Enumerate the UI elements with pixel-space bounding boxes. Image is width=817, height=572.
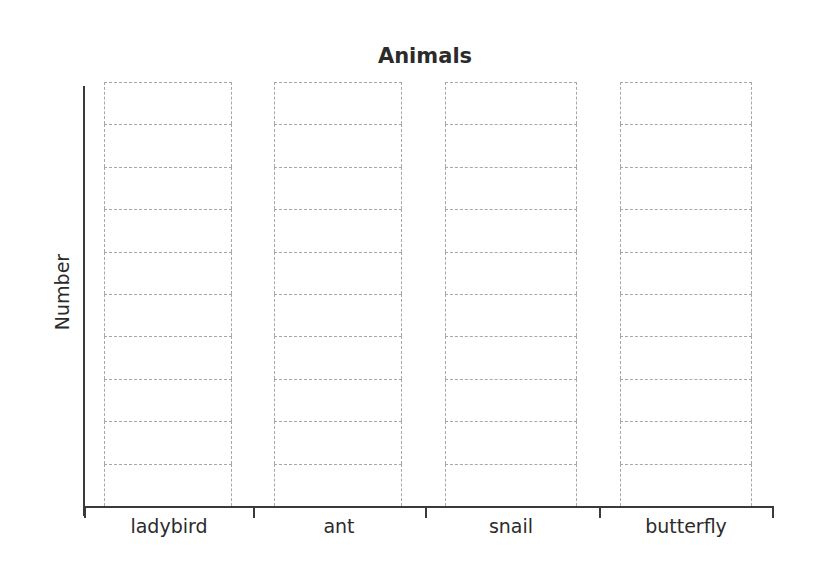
bar-grid-cell: [620, 124, 752, 166]
bar-grid-cell: [104, 124, 232, 166]
bar-grid-cell: [274, 209, 402, 251]
bar-ant: [274, 82, 402, 506]
bar-grid-cell: [620, 252, 752, 294]
bar-grid-cell: [445, 82, 577, 124]
bar-grid-cell: [620, 294, 752, 336]
bar-grid-cell: [620, 464, 752, 506]
x-label-snail: snail: [445, 515, 577, 537]
bar-grid-cell: [274, 167, 402, 209]
bar-grid-cell: [274, 82, 402, 124]
bar-ladybird: [104, 82, 232, 506]
bar-butterfly: [620, 82, 752, 506]
bar-grid-cell: [104, 252, 232, 294]
x-axis-tick: [599, 506, 601, 518]
bar-grid-cell: [104, 464, 232, 506]
chart-title: Animals: [0, 44, 817, 68]
bar-grid-cell: [104, 379, 232, 421]
bar-grid-cell: [274, 252, 402, 294]
x-axis-tick: [84, 506, 86, 518]
bar-grid-cell: [620, 209, 752, 251]
bar-grid-cell: [445, 209, 577, 251]
bar-grid-cell: [274, 464, 402, 506]
bar-grid-cell: [445, 421, 577, 463]
y-axis-label: Number: [51, 254, 73, 330]
x-label-ladybird: ladybird: [104, 515, 234, 537]
bar-grid-cell: [274, 124, 402, 166]
bar-grid-cell: [104, 336, 232, 378]
bar-grid-cell: [274, 379, 402, 421]
x-axis-line: [84, 506, 774, 508]
bar-grid-cell: [445, 379, 577, 421]
bar-grid-cell: [445, 294, 577, 336]
bar-grid-cell: [104, 209, 232, 251]
x-label-ant: ant: [274, 515, 404, 537]
bar-grid-cell: [274, 336, 402, 378]
bar-grid-cell: [445, 252, 577, 294]
bar-grid-cell: [620, 379, 752, 421]
bar-grid-cell: [104, 421, 232, 463]
bar-grid-cell: [104, 294, 232, 336]
bar-grid-cell: [620, 421, 752, 463]
bar-grid-cell: [620, 336, 752, 378]
bar-snail: [445, 82, 577, 506]
bar-grid-cell: [445, 336, 577, 378]
x-axis-tick: [253, 506, 255, 518]
x-axis-tick: [772, 506, 774, 518]
bar-grid-cell: [104, 82, 232, 124]
bar-grid-cell: [104, 167, 232, 209]
bar-grid-cell: [445, 464, 577, 506]
x-axis-tick: [425, 506, 427, 518]
bar-grid-cell: [274, 421, 402, 463]
bar-grid-cell: [620, 82, 752, 124]
x-label-butterfly: butterfly: [620, 515, 752, 537]
bar-grid-cell: [445, 167, 577, 209]
y-axis-line: [83, 86, 85, 516]
bar-grid-cell: [445, 124, 577, 166]
bar-grid-cell: [620, 167, 752, 209]
bar-grid-cell: [274, 294, 402, 336]
